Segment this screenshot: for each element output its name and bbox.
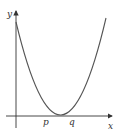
- parabola-diagram: y p q x: [0, 0, 122, 138]
- root-q-label: q: [69, 117, 75, 127]
- parabola-curve: [16, 18, 106, 115]
- x-axis-label: x: [108, 121, 113, 131]
- y-axis-label: y: [6, 9, 13, 19]
- root-p-label: p: [43, 117, 49, 127]
